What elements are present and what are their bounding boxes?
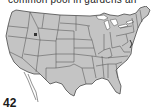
us-outline [6,6,150,96]
us-states-map [0,6,159,106]
baja-outline-2 [28,74,38,102]
page-number: 42 [3,96,16,110]
caption-text: common pool in gardens an [8,0,159,5]
salt-lake-marker [34,33,37,36]
baja-outline [24,72,36,100]
